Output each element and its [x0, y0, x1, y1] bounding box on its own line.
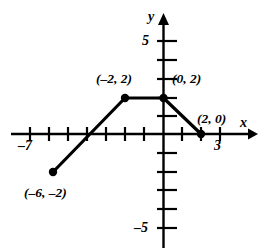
data-point-neg2-2 — [121, 94, 129, 102]
point-label-neg2-2: (–2, 2) — [96, 72, 132, 86]
data-point-2-0 — [197, 130, 205, 138]
y-tick-label-5: 5 — [142, 34, 149, 48]
graph-figure: y x –7 3 5 –5 (–2, 2) (0, 2) (2, 0) (–6,… — [0, 0, 262, 251]
x-tick-label-minus7: –7 — [18, 139, 32, 153]
point-label-neg6-neg2: (–6, –2) — [24, 186, 67, 200]
point-label-0-2: (0, 2) — [172, 72, 201, 86]
data-point-0-2 — [159, 94, 167, 102]
point-label-2-0: (2, 0) — [197, 112, 226, 126]
y-tick-label-minus5: –5 — [134, 221, 148, 235]
x-axis-label: x — [240, 116, 247, 130]
y-axis — [158, 13, 169, 248]
x-tick-label-3: 3 — [214, 139, 221, 153]
data-point-neg6-neg2 — [49, 168, 57, 176]
y-axis-label: y — [148, 10, 154, 24]
